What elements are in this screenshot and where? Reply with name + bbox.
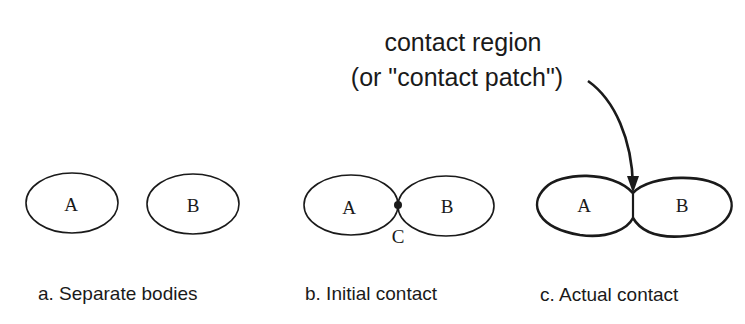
contact-point-dot	[394, 201, 402, 209]
contact-diagram: contact region (or "contact patch") A B …	[0, 0, 745, 324]
body-a-label: A	[577, 195, 591, 216]
body-b-label: B	[187, 195, 200, 216]
panel-b-initial-contact: A B C b. Initial contact	[304, 175, 494, 304]
body-a-label: A	[342, 197, 356, 218]
panel-c-actual-contact: A B c. Actual contact	[537, 176, 731, 305]
panel-c-caption: c. Actual contact	[540, 284, 679, 305]
panel-a-separate-bodies: A B a. Separate bodies	[26, 173, 239, 304]
panel-b-caption: b. Initial contact	[305, 283, 438, 304]
contact-region-arrow	[588, 81, 633, 186]
annotation-line-2: (or "contact patch")	[351, 63, 563, 91]
contact-point-label: C	[392, 226, 405, 247]
body-b-label: B	[441, 196, 454, 217]
panel-a-caption: a. Separate bodies	[38, 283, 198, 304]
annotation-line-1: contact region	[384, 28, 541, 56]
body-b-label: B	[676, 195, 689, 216]
body-a-label: A	[64, 194, 78, 215]
